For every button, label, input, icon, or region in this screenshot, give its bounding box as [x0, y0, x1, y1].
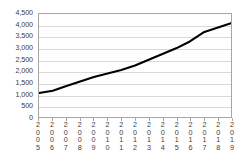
x-axis-label: 2012 — [131, 121, 140, 151]
x-axis-label-char: 6 — [47, 144, 56, 152]
y-axis-label: 1,500 — [16, 79, 34, 86]
x-axis-label: 2010 — [103, 121, 112, 151]
y-axis-label: 2,000 — [16, 68, 34, 75]
x-axis-label-char: 9 — [228, 144, 237, 152]
x-axis-label: 2007 — [61, 121, 70, 151]
plot-area — [38, 13, 232, 118]
x-axis-label-char: 8 — [75, 144, 84, 152]
x-axis-label: 2015 — [172, 121, 181, 151]
y-axis-tick-labels: 05001,0001,5002,0002,5003,0003,5004,0004… — [0, 0, 36, 154]
x-axis-label: 2009 — [89, 121, 98, 151]
x-axis-label-char: 7 — [200, 144, 209, 152]
x-axis-label: 2018 — [214, 121, 223, 151]
line-chart: 05001,0001,5002,0002,5003,0003,5004,0004… — [0, 0, 246, 154]
x-axis-label-char: 1 — [117, 144, 126, 152]
x-axis-label-char: 4 — [158, 144, 167, 152]
y-axis-label: 4,000 — [16, 21, 34, 28]
x-axis-label-char: 9 — [89, 144, 98, 152]
x-axis-label: 2016 — [186, 121, 195, 151]
y-axis-label: 0 — [29, 114, 33, 121]
x-axis-tick-labels: 2005200620072008200920102011201220132014… — [38, 121, 232, 154]
y-axis-label: 3,500 — [16, 33, 34, 40]
x-axis-label-char: 7 — [61, 144, 70, 152]
x-axis-label: 2019 — [228, 121, 237, 151]
x-axis-label-char: 0 — [103, 144, 112, 152]
x-axis-label-char: 6 — [186, 144, 195, 152]
x-axis-label-char: 5 — [34, 144, 43, 152]
y-axis-label: 3,000 — [16, 44, 34, 51]
series-line — [39, 14, 231, 117]
y-axis-label: 2,500 — [16, 56, 34, 63]
x-axis-label: 2011 — [117, 121, 126, 151]
x-axis-label-char: 3 — [144, 144, 153, 152]
x-axis-label: 2008 — [75, 121, 84, 151]
x-axis-label-char: 2 — [131, 144, 140, 152]
x-axis-label: 2006 — [47, 121, 56, 151]
x-axis-label: 2013 — [144, 121, 153, 151]
y-axis-label: 500 — [21, 103, 33, 110]
x-axis-label: 2005 — [34, 121, 43, 151]
x-axis-label: 2017 — [200, 121, 209, 151]
y-axis-label: 4,500 — [16, 9, 34, 16]
y-axis-label: 1,000 — [16, 91, 34, 98]
x-axis-label-char: 8 — [214, 144, 223, 152]
x-axis-label: 2014 — [158, 121, 167, 151]
x-axis-label-char: 5 — [172, 144, 181, 152]
